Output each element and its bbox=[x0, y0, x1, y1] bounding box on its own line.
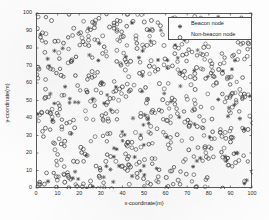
y-tick-label: 20 bbox=[14, 150, 32, 155]
legend-box: Beacon node Non-beacon node bbox=[168, 17, 252, 40]
legend-label-non-beacon: Non-beacon node bbox=[191, 32, 235, 38]
y-tick-label: 70 bbox=[14, 63, 32, 68]
legend-label-beacon: Beacon node bbox=[191, 21, 224, 27]
y-tick-label: 80 bbox=[14, 45, 32, 50]
x-tick-label: 20 bbox=[76, 191, 82, 196]
x-tick-label: 0 bbox=[35, 191, 38, 196]
beacon-node-markers bbox=[37, 15, 252, 189]
legend-item-beacon: Beacon node bbox=[169, 18, 253, 29]
y-tick-label: 90 bbox=[14, 28, 32, 33]
y-tick-label: 40 bbox=[14, 115, 32, 120]
x-tick-label: 100 bbox=[248, 191, 257, 196]
x-tick-label: 80 bbox=[206, 191, 212, 196]
legend-item-non-beacon: Non-beacon node bbox=[169, 29, 253, 40]
x-tick-label: 50 bbox=[141, 191, 147, 196]
x-tick-label: 60 bbox=[163, 191, 169, 196]
y-tick-label: 10 bbox=[14, 168, 32, 173]
scatter-figure: 0102030405060708090100010203040506070809… bbox=[0, 0, 269, 220]
star-icon bbox=[169, 18, 191, 29]
x-tick-label: 10 bbox=[55, 191, 61, 196]
scatter-canvas bbox=[37, 14, 253, 189]
y-tick-label: 50 bbox=[14, 98, 32, 103]
x-tick-label: 90 bbox=[227, 191, 233, 196]
x-axis-label: x-coordinate(m) bbox=[124, 200, 163, 206]
x-tick-label: 70 bbox=[184, 191, 190, 196]
y-tick-label: 100 bbox=[14, 10, 32, 15]
y-tick-label: 0 bbox=[14, 185, 32, 190]
y-axis-label: y-coordinate(m) bbox=[4, 68, 10, 138]
y-tick-label: 30 bbox=[14, 133, 32, 138]
circle-icon bbox=[169, 29, 191, 40]
y-tick-label: 60 bbox=[14, 80, 32, 85]
x-tick-label: 40 bbox=[119, 191, 125, 196]
x-tick-label: 30 bbox=[98, 191, 104, 196]
